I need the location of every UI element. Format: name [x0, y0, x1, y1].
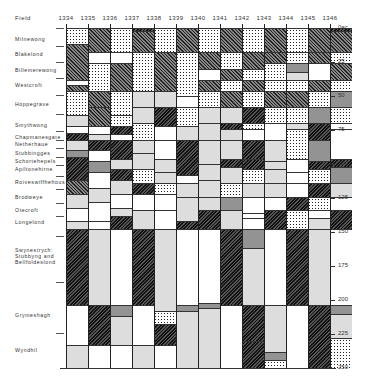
- field-label: Swynestrych: Stubbyng and Bellfoldeslond: [15, 247, 56, 265]
- field-label: Grymeshagh: [15, 312, 51, 318]
- crop-segment: [198, 229, 220, 302]
- crop-segment: [308, 123, 330, 139]
- y-tick-label: 225: [338, 330, 348, 336]
- crop-segment: [110, 316, 132, 345]
- year-divider: [66, 24, 67, 368]
- crop-segment: [88, 91, 110, 107]
- crop-segment: [308, 52, 330, 63]
- y-tick: [330, 232, 335, 233]
- year-divider: [88, 24, 89, 368]
- field-label: Longelond: [15, 219, 45, 225]
- crop-segment: [286, 91, 308, 107]
- crop-segment: [198, 123, 220, 139]
- crop-segment: [110, 52, 132, 63]
- field-boundary-tick: [56, 62, 64, 63]
- y-tick-label: 125: [338, 194, 348, 200]
- crop-segment: [308, 210, 330, 218]
- crop-segment: [66, 91, 88, 115]
- y-tick: [330, 62, 335, 63]
- crop-segment: [308, 169, 330, 183]
- crop-segment: [242, 218, 264, 229]
- crop-segment: [308, 197, 330, 211]
- crop-segment: [308, 218, 330, 229]
- field-boundary-tick: [56, 114, 64, 115]
- crop-segment: [264, 140, 286, 162]
- crop-segment: [264, 52, 286, 63]
- year-divider: [220, 24, 221, 368]
- y-tick: [330, 130, 335, 131]
- crop-segment: [286, 52, 308, 63]
- crop-segment: [88, 161, 110, 172]
- crop-segment: [132, 52, 154, 90]
- year-divider: [110, 24, 111, 368]
- crop-segment: [110, 208, 132, 216]
- field-label: Smythwong: [15, 122, 48, 128]
- crop-segment: [88, 345, 110, 368]
- crop-segment: [132, 91, 154, 107]
- crop-segment: [88, 172, 110, 188]
- crop-segment: [66, 115, 88, 126]
- crop-segment: [330, 107, 352, 123]
- crop-segment: [242, 159, 264, 170]
- crop-segment: [264, 123, 286, 139]
- crop-segment: [66, 44, 88, 79]
- crop-segment: [242, 107, 264, 123]
- crop-segment: [308, 80, 330, 91]
- crop-segment: [286, 210, 308, 229]
- crop-segment: [308, 91, 330, 107]
- year-label: 1345: [301, 15, 316, 21]
- field-boundary-tick: [56, 216, 64, 217]
- crop-segment: [176, 28, 198, 52]
- crop-segment: [110, 180, 132, 194]
- y-tick: [330, 96, 335, 97]
- crop-segment: [88, 150, 110, 161]
- field-label: Milnewong: [15, 36, 45, 42]
- crop-segment: [220, 52, 242, 68]
- field-boundary-tick: [56, 203, 64, 204]
- crop-segment: [242, 229, 264, 248]
- crop-segment: [242, 140, 264, 159]
- crop-segment: [242, 69, 264, 80]
- year-label: 1340: [191, 15, 206, 21]
- crop-segment: [88, 305, 110, 344]
- y-tick-label: 175: [338, 262, 348, 268]
- field-label: Roiveswiffhehous: [15, 179, 65, 185]
- year-divider: [286, 24, 287, 368]
- year-label: 1336: [103, 15, 118, 21]
- crop-segment: [242, 91, 264, 107]
- crop-segment: [264, 210, 286, 229]
- crop-segment: [286, 107, 308, 123]
- crop-segment: [286, 28, 308, 52]
- year-label: 1338: [147, 15, 162, 21]
- field-label: Billemerewong: [15, 67, 57, 73]
- crop-segment: [242, 305, 264, 340]
- crop-segment: [132, 123, 154, 139]
- crop-segment: [110, 169, 132, 180]
- crop-segment: [330, 210, 352, 229]
- crop-segment: [286, 63, 308, 71]
- field-label: Wyndhil: [15, 347, 38, 353]
- crop-segment: [330, 63, 352, 79]
- crop-segment: [308, 305, 330, 368]
- crop-segment: [66, 208, 88, 222]
- crop-segment: [132, 305, 154, 344]
- crop-segment: [264, 305, 286, 351]
- field-boundary-tick: [56, 95, 64, 96]
- field-boundary-tick: [56, 131, 64, 132]
- crop-segment: [66, 194, 88, 208]
- year-divider: [198, 24, 199, 368]
- field-header-label: Field: [15, 15, 31, 21]
- year-divider: [242, 24, 243, 368]
- crop-segment: [286, 305, 308, 368]
- crop-segment: [220, 129, 242, 140]
- crop-segment: [308, 229, 330, 305]
- crop-segment: [286, 183, 308, 197]
- crop-segment: [286, 80, 308, 91]
- crop-segment: [88, 202, 110, 221]
- crop-segment: [308, 107, 330, 123]
- crop-segment: [66, 221, 88, 229]
- crop-segment: [110, 194, 132, 208]
- baseline: [60, 368, 336, 369]
- crop-segment: [132, 169, 154, 183]
- crop-segment: [220, 305, 242, 368]
